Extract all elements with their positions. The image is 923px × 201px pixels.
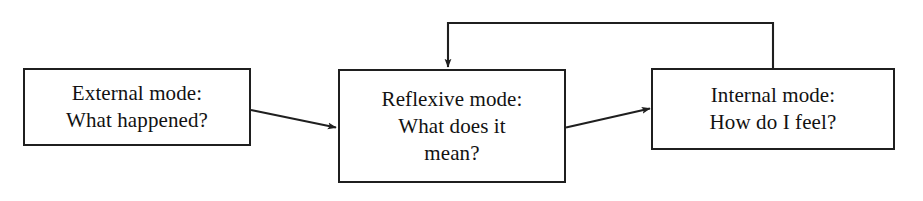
reflexive-mode-line-1: Reflexive mode: [382, 86, 523, 113]
arrow-reflexive-to-internal [566, 109, 650, 128]
reflexive-mode-line-2: What does it [398, 113, 505, 140]
reflexive-mode-box[interactable]: Reflexive mode: What does it mean? [338, 69, 566, 183]
reflexive-mode-line-3: mean? [424, 140, 479, 167]
arrow-external-to-reflexive [251, 110, 336, 128]
arrow-internal-to-reflexive-feedback [448, 23, 773, 68]
diagram-canvas: External mode: What happened? Reflexive … [0, 0, 923, 201]
internal-mode-box[interactable]: Internal mode: How do I feel? [651, 68, 895, 150]
external-mode-box[interactable]: External mode: What happened? [23, 68, 251, 146]
internal-mode-line-1: Internal mode: [711, 82, 835, 109]
external-mode-line-1: External mode: [72, 80, 202, 107]
internal-mode-line-2: How do I feel? [710, 109, 837, 136]
external-mode-line-2: What happened? [66, 107, 208, 134]
